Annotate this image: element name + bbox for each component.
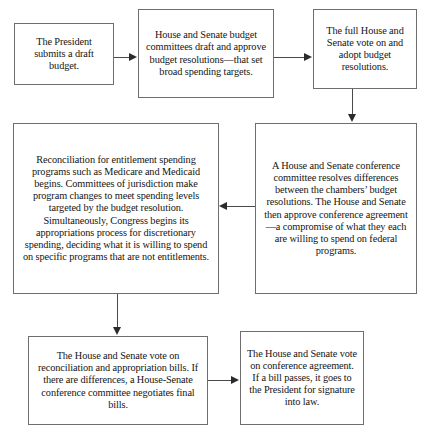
edge-conference-to-reconciliation-arrowhead — [219, 202, 227, 210]
flow-node-full-house-senate-vote-label: The full House and Senate vote on and ad… — [319, 25, 411, 74]
edge-votebills-to-signature-arrowhead — [231, 376, 239, 384]
edge-fullvote-to-conference-line — [352, 89, 353, 115]
edge-president-to-committees-line — [114, 57, 130, 58]
flow-node-full-house-senate-vote: The full House and Senate vote on and ad… — [313, 9, 417, 89]
flow-node-vote-reconciliation-bills-label: The House and Senate vote on reconciliat… — [34, 350, 202, 411]
edge-fullvote-to-conference-arrowhead — [348, 114, 356, 122]
flow-node-president: The President submits a draft budget. — [14, 23, 114, 85]
edge-reconciliation-to-votebills-arrowhead — [113, 327, 121, 335]
flow-node-reconciliation-label: Reconciliation for entitlement spending … — [19, 154, 213, 263]
flow-node-vote-reconciliation-bills: The House and Senate vote on reconciliat… — [28, 336, 208, 425]
flow-node-conference-committee: A House and Senate conference committee … — [255, 123, 417, 294]
flow-node-budget-committees: House and Senate budget committees draft… — [138, 9, 274, 98]
edge-committees-to-fullvote-arrowhead — [304, 53, 312, 61]
flow-node-president-signature: The House and Senate vote on conference … — [240, 331, 364, 425]
edge-conference-to-reconciliation-line — [227, 206, 255, 207]
edge-reconciliation-to-votebills-line — [117, 294, 118, 328]
flow-node-president-signature-label: The House and Senate vote on conference … — [246, 348, 358, 409]
flowchart-diagram: The President submits a draft budget. Ho… — [0, 0, 430, 432]
edge-committees-to-fullvote-line — [274, 57, 305, 58]
flow-node-budget-committees-label: House and Senate budget committees draft… — [144, 29, 268, 78]
flow-node-conference-committee-label: A House and Senate conference committee … — [261, 160, 411, 257]
flow-node-president-label: The President submits a draft budget. — [20, 36, 108, 72]
edge-president-to-committees-arrowhead — [129, 53, 137, 61]
flow-node-reconciliation: Reconciliation for entitlement spending … — [13, 123, 219, 294]
edge-votebills-to-signature-line — [208, 380, 232, 381]
